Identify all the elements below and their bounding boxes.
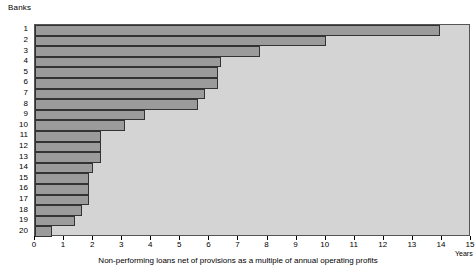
- x-axis-tick-label: 12: [378, 241, 387, 249]
- bar-row: [35, 195, 469, 206]
- y-axis-tick-label: 7: [24, 89, 28, 97]
- bar-row: [35, 173, 469, 184]
- y-axis-tick-label: 20: [19, 227, 28, 235]
- bar: [35, 184, 89, 195]
- y-axis-tick-label: 9: [24, 110, 28, 118]
- bar: [35, 78, 218, 89]
- x-axis-title: Non-performing loans net of provisions a…: [0, 256, 476, 265]
- bar: [35, 216, 75, 227]
- bar-row: [35, 184, 469, 195]
- bar: [35, 131, 101, 142]
- bar-row: [35, 36, 469, 47]
- bar-series: [35, 25, 469, 235]
- bar-row: [35, 163, 469, 174]
- bar: [35, 57, 221, 68]
- bar-row: [35, 46, 469, 57]
- x-axis-tick-label: 2: [90, 241, 94, 249]
- x-axis-tick-label: 9: [293, 241, 297, 249]
- bar-row: [35, 142, 469, 153]
- bar-row: [35, 120, 469, 131]
- y-axis-tick-labels: 1234567891011121314151617181920: [0, 24, 31, 236]
- bar: [35, 152, 101, 163]
- x-axis-tick-label: 6: [206, 241, 210, 249]
- bar: [35, 25, 440, 36]
- bar-row: [35, 25, 469, 36]
- x-axis-tick-label: 14: [436, 241, 445, 249]
- x-axis-tick-label: 5: [177, 241, 181, 249]
- bar: [35, 142, 101, 153]
- y-axis-tick-label: 14: [19, 163, 28, 171]
- x-axis-tick-label: 0: [32, 241, 36, 249]
- x-axis-tick-label: 3: [119, 241, 123, 249]
- bar: [35, 110, 145, 121]
- y-axis-tick-label: 8: [24, 100, 28, 108]
- bar: [35, 163, 93, 174]
- bar-row: [35, 152, 469, 163]
- y-axis-tick-label: 3: [24, 47, 28, 55]
- bar: [35, 36, 326, 47]
- x-axis-tick-label: 10: [320, 241, 329, 249]
- bar: [35, 195, 89, 206]
- bar: [35, 99, 198, 110]
- y-axis-tick-label: 10: [19, 121, 28, 129]
- bar-row: [35, 131, 469, 142]
- y-axis-tick-label: 5: [24, 68, 28, 76]
- bar: [35, 89, 205, 100]
- x-axis-tick-label: 13: [407, 241, 416, 249]
- bar-row: [35, 216, 469, 227]
- bar-row: [35, 78, 469, 89]
- y-axis-tick-label: 18: [19, 206, 28, 214]
- bar: [35, 46, 260, 57]
- y-axis-tick-label: 19: [19, 216, 28, 224]
- y-axis-tick-label: 17: [19, 195, 28, 203]
- bar-row: [35, 205, 469, 216]
- x-axis-unit-label: Years: [455, 250, 473, 257]
- y-axis-tick-label: 11: [20, 131, 28, 139]
- x-axis-tick-label: 1: [61, 241, 65, 249]
- y-axis-tick-label: 12: [19, 142, 28, 150]
- x-axis-tick-label: 11: [350, 241, 358, 249]
- y-axis-tick-label: 13: [19, 153, 28, 161]
- chart-container: Banks 1234567891011121314151617181920 01…: [0, 0, 476, 277]
- bar-row: [35, 99, 469, 110]
- plot-area: [34, 24, 470, 236]
- bar: [35, 67, 218, 78]
- y-axis-tick-label: 6: [24, 78, 28, 86]
- bar-row: [35, 89, 469, 100]
- bar-row: [35, 57, 469, 68]
- bar: [35, 173, 89, 184]
- x-axis-tick-label: 15: [466, 241, 475, 249]
- y-axis-tick-label: 15: [19, 174, 28, 182]
- x-axis-tick-labels: 0123456789101112131415: [0, 241, 476, 253]
- bar-row: [35, 110, 469, 121]
- bar: [35, 120, 125, 131]
- bar-row: [35, 67, 469, 78]
- y-axis-tick-label: 4: [24, 57, 28, 65]
- y-axis-tick-label: 16: [19, 184, 28, 192]
- y-axis-tick-label: 2: [24, 36, 28, 44]
- y-axis-tick-label: 1: [24, 25, 28, 33]
- y-axis-title: Banks: [8, 3, 31, 12]
- x-axis-tick-label: 4: [148, 241, 152, 249]
- x-axis-tick-label: 7: [235, 241, 239, 249]
- bar: [35, 205, 82, 216]
- x-axis-tick-label: 8: [264, 241, 268, 249]
